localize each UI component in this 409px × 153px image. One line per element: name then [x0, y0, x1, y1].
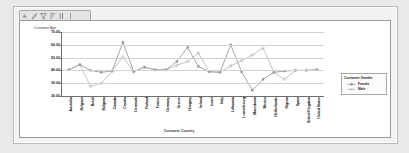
legend-label: Male — [358, 87, 365, 91]
divider-icon — [67, 12, 74, 20]
y-tick-label: 20.00 — [51, 94, 60, 98]
x-tick-label: United States — [317, 97, 321, 119]
chart-window: A Customer Age 20.003 — [13, 6, 398, 144]
x-tick-label: Ireland — [199, 97, 203, 108]
x-tick-label: Hungary — [188, 97, 192, 111]
x-axis-title: Customer Country — [20, 129, 338, 133]
x-tick-label: United Kingdom — [307, 97, 311, 123]
x-tick-label: Macedonia — [253, 97, 257, 115]
x-tick-label: Denmark — [134, 97, 138, 112]
legend-title: Customer Gender — [344, 76, 384, 80]
y-tick-label: 60.00 — [51, 43, 60, 47]
x-tick-label: Spain — [296, 97, 300, 106]
series-line — [69, 48, 317, 86]
x-tick-label: Mexico — [263, 97, 267, 109]
gridline — [62, 83, 324, 84]
svg-text:A: A — [22, 13, 27, 19]
y-tick-mark — [60, 70, 62, 71]
column-icon[interactable] — [58, 12, 65, 20]
x-tick-label: Israel — [210, 97, 214, 106]
x-tick-label: Canada — [113, 97, 117, 109]
gridline — [62, 70, 324, 71]
x-tick-label: Finland — [145, 97, 149, 109]
legend-label: Female — [358, 82, 369, 86]
x-tick-label: Croatia — [123, 97, 127, 109]
y-tick-mark — [60, 83, 62, 84]
x-tick-label: Bulgaria — [102, 97, 106, 111]
gridline — [62, 32, 324, 33]
plot-area: 20.0030.0040.0050.0060.0070.00 — [61, 32, 324, 97]
app-background: A Customer Age 20.003 — [0, 0, 409, 153]
legend: Customer Gender FemaleMale — [341, 73, 387, 95]
edit-pencil-icon[interactable] — [31, 12, 38, 20]
chart-panel: Customer Age 20.0030.0040.0050.0060.0070… — [19, 20, 391, 138]
x-tick-label: France — [156, 97, 160, 108]
y-tick-label: 40.00 — [51, 68, 60, 72]
x-tick-label: Belgium — [80, 97, 84, 110]
text-label-icon[interactable]: A — [22, 12, 29, 20]
legend-item[interactable]: Male — [347, 87, 384, 92]
data-point-marker — [122, 41, 124, 43]
y-tick-mark — [60, 32, 62, 33]
x-tick-label: Greece — [177, 97, 181, 109]
data-point-marker — [251, 89, 253, 91]
data-point-marker — [187, 46, 189, 48]
y-tick-label: 50.00 — [51, 56, 60, 60]
gridline — [62, 58, 324, 59]
x-tick-label: Australia — [69, 97, 73, 112]
x-tick-label: Italy — [220, 97, 224, 104]
data-point-marker — [262, 78, 264, 80]
legend-entries: FemaleMale — [344, 82, 384, 92]
legend-swatch-icon — [347, 83, 356, 86]
y-tick-mark — [60, 45, 62, 46]
x-tick-label: Nigeria — [285, 97, 289, 109]
chart-canvas: Customer Age 20.0030.0040.0050.0060.0070… — [20, 21, 338, 137]
x-tick-label: Netherlands — [274, 97, 278, 117]
sort-icon[interactable] — [49, 12, 56, 20]
x-tick-label: Luxembourg — [242, 97, 246, 118]
series-lines — [62, 32, 324, 96]
legend-swatch-icon — [347, 88, 356, 91]
data-point-marker — [197, 65, 199, 67]
y-tick-label: 30.00 — [51, 81, 60, 85]
gridline — [62, 45, 324, 46]
y-tick-mark — [60, 58, 62, 59]
x-tick-label: Lithuania — [231, 97, 235, 112]
data-point-marker — [176, 60, 178, 62]
filter-icon[interactable] — [40, 12, 47, 20]
x-tick-label: Brazil — [91, 97, 95, 106]
data-point-marker — [100, 71, 102, 73]
y-tick-label: 70.00 — [51, 30, 60, 34]
x-tick-label: Germany — [166, 97, 170, 112]
